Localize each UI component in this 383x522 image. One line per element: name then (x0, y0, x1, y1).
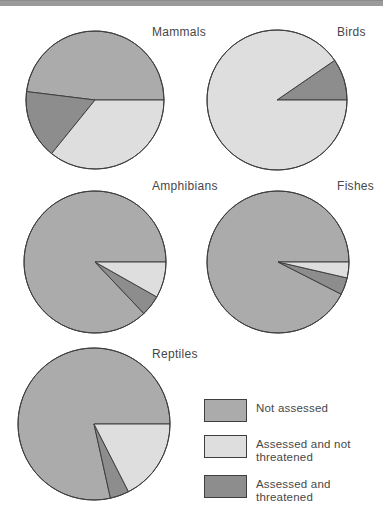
figure-page: Mammals Birds Amphibians Fishes Reptiles… (0, 0, 383, 522)
legend-label-not-assessed: Not assessed (256, 399, 360, 415)
pie-title-fishes: Fishes (337, 179, 374, 193)
legend-item-assessed-threatened: Assessed and threatened (204, 475, 360, 504)
pie-title-amphibians: Amphibians (152, 179, 218, 193)
pie-slice-assessed_not_threatened (207, 30, 347, 170)
pie-slice-not_assessed (27, 31, 164, 100)
pie-title-birds: Birds (337, 25, 366, 39)
legend-item-not-assessed: Not assessed (204, 399, 360, 422)
pie-chart-amphibians (15, 182, 175, 342)
legend-swatch-assessed-not-threatened (204, 435, 247, 458)
pie-chart-reptiles (14, 344, 174, 504)
legend: Not assessed Assessed and not threatened… (204, 399, 379, 509)
legend-item-assessed-not-threatened: Assessed and not threatened (204, 435, 360, 464)
legend-label-assessed-threatened: Assessed and threatened (256, 475, 360, 504)
pie-chart-fishes (198, 182, 358, 342)
pie-title-mammals: Mammals (152, 25, 206, 39)
pie-chart-mammals (15, 20, 175, 180)
pie-title-reptiles: Reptiles (152, 347, 198, 361)
legend-label-assessed-not-threatened: Assessed and not threatened (256, 435, 360, 464)
top-divider-bar (0, 0, 383, 6)
pie-chart-birds (197, 20, 357, 180)
legend-swatch-assessed-threatened (204, 475, 247, 498)
legend-swatch-not-assessed (204, 399, 247, 422)
